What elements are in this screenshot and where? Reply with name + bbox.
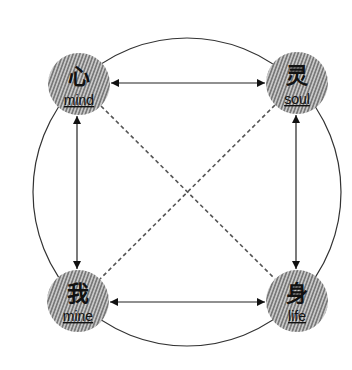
- node-soul-glyph: 灵: [286, 63, 308, 88]
- node-mind[interactable]: 心 mind: [48, 53, 110, 115]
- node-life-glyph: 身: [286, 281, 308, 306]
- node-soul[interactable]: 灵 soul: [266, 52, 328, 114]
- node-mind-glyph: 心: [68, 64, 90, 89]
- diagram-canvas: 心 mind 灵 soul 我 mine 身 life: [0, 0, 352, 370]
- node-mind-label: mind: [64, 92, 94, 108]
- node-mine-label: mine: [63, 308, 94, 324]
- node-mine[interactable]: 我 mine: [47, 270, 109, 332]
- node-soul-label: soul: [284, 91, 310, 107]
- node-life-label: life: [288, 308, 306, 324]
- node-life[interactable]: 身 life: [266, 270, 328, 332]
- node-mine-glyph: 我: [67, 281, 89, 306]
